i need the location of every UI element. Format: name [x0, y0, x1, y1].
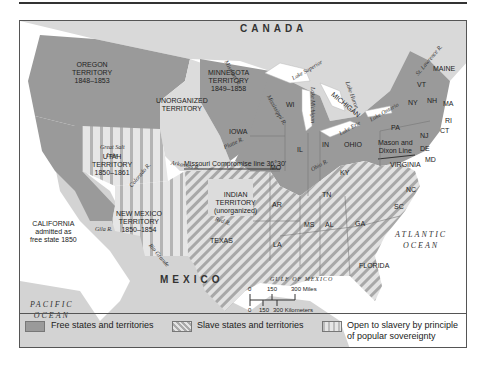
- label-sc: SC: [394, 203, 404, 211]
- label-il: IL: [297, 146, 303, 154]
- label-texas: TEXAS: [210, 237, 233, 245]
- label-atlantic-ocean: ATLANTICOCEAN: [395, 229, 447, 251]
- label-vt: VT: [417, 81, 426, 89]
- label-ri: RI: [445, 117, 452, 125]
- label-unorganized-territory: UNORGANIZEDTERRITORY: [156, 97, 208, 113]
- label-ny: NY: [408, 99, 418, 107]
- label-canada: CANADA: [240, 25, 307, 33]
- label-de: DE: [420, 145, 430, 153]
- label-ms: MS: [304, 221, 315, 229]
- legend-label-free: Free states and territories: [51, 320, 154, 331]
- legend: Free states and territories Slave states…: [19, 313, 467, 348]
- label-nh: NH: [427, 97, 437, 105]
- legend-label-open: Open to slavery by principleof popular s…: [347, 320, 458, 342]
- label-pa: PA: [391, 124, 400, 132]
- scale-miles-150: 150: [267, 285, 277, 293]
- legend-swatch-slave: [172, 321, 192, 332]
- label-mason-dixon: Mason andDixon Line: [378, 139, 413, 155]
- label-gila-river: Gila R.: [95, 225, 112, 233]
- label-la: LA: [273, 241, 282, 249]
- scale-bar: 0 150 300 Miles 0 150 300 Kilometers: [248, 283, 338, 313]
- label-new-mexico-territory: NEW MEXICOTERRITORY1850–1854: [116, 210, 162, 234]
- label-missouri-compromise: Missouri Compromise line 36°30': [184, 160, 286, 168]
- label-indian-territory: INDIANTERRITORY(unorganized): [214, 191, 257, 215]
- top-rule: [19, 2, 467, 4]
- label-tn: TN: [322, 191, 331, 199]
- map-frame: CANADA MEXICO PACIFICOCEAN ATLANTICOCEAN…: [19, 20, 467, 348]
- label-virginia: VIRGINIA: [390, 161, 421, 169]
- scale-miles-0: 0: [248, 285, 251, 293]
- label-mexico: MEXICO: [160, 276, 223, 284]
- label-md: MD: [425, 156, 436, 164]
- label-nc: NC: [406, 186, 416, 194]
- label-in: IN: [322, 141, 329, 149]
- legend-swatch-open: [322, 321, 342, 332]
- label-great-salt-lake: Great SaltLake: [100, 143, 125, 159]
- scale-miles-300: 300 Miles: [291, 285, 317, 293]
- label-lake-michigan: Lake Michigan: [309, 87, 317, 123]
- label-al: AL: [325, 221, 334, 229]
- label-california: CALIFORNIAadmitted asfree state 1850: [30, 220, 77, 244]
- label-maine: MAINE: [433, 65, 455, 73]
- legend-label-slave: Slave states and territories: [197, 320, 304, 331]
- label-ga: GA: [355, 220, 365, 228]
- label-ar: AR: [272, 201, 282, 209]
- label-ky: KY: [340, 169, 349, 177]
- label-ma: MA: [443, 100, 454, 108]
- legend-swatch-free: [25, 321, 45, 332]
- label-iowa: IOWA: [229, 128, 247, 136]
- label-ct: CT: [440, 127, 449, 135]
- label-oregon-territory: OREGONTERRITORY1848–1853: [72, 61, 112, 85]
- label-nj: NJ: [420, 132, 429, 140]
- label-wi: WI: [286, 101, 295, 109]
- label-gulf-of-mexico: GULF OF MEXICO: [270, 275, 333, 283]
- label-ohio: OHIO: [344, 141, 362, 149]
- label-florida: FLORIDA: [359, 262, 389, 270]
